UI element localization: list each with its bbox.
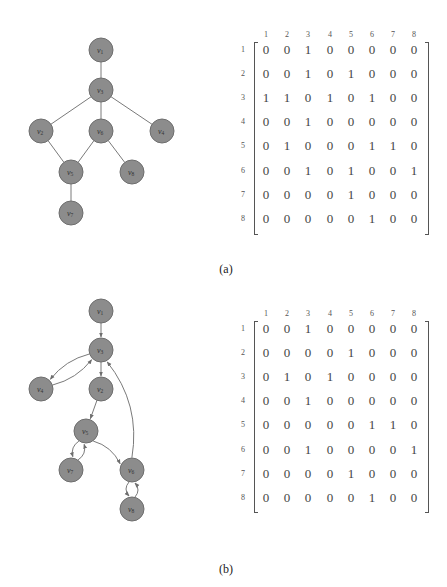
column-header: 5 [344,30,358,39]
column-header: 1 [259,309,273,318]
column-header: 8 [407,30,421,39]
matrix-cell: 0 [300,369,316,385]
matrix-cell: 0 [385,466,401,482]
matrix-cell: 1 [364,90,380,106]
matrix-cell: 0 [322,490,338,506]
matrix-cell: 0 [364,466,380,482]
column-header: 4 [323,30,337,39]
matrix-cell: 0 [258,442,274,458]
matrix-cell: 0 [343,90,359,106]
matrix-cell: 0 [406,321,422,337]
matrix-right-bracket [425,42,429,235]
matrix-cell: 0 [300,345,316,361]
matrix-cell: 0 [258,369,274,385]
column-header: 7 [386,30,400,39]
matrix-cell: 0 [258,211,274,227]
matrix-cell: 0 [258,114,274,130]
matrix-cell: 1 [343,466,359,482]
matrix-cell: 0 [279,163,295,179]
matrix-cell: 0 [364,393,380,409]
matrix-cell: 0 [406,66,422,82]
matrix-cell: 1 [322,90,338,106]
row-header: 6 [238,445,248,454]
matrix-cell: 1 [406,163,422,179]
matrix-cell: 0 [322,417,338,433]
matrix-cell: 0 [364,345,380,361]
matrix-cell: 0 [279,211,295,227]
matrix-cell: 1 [300,114,316,130]
column-header: 5 [344,309,358,318]
matrix-cell: 1 [258,90,274,106]
column-header: 2 [280,309,294,318]
matrix-cell: 0 [364,187,380,203]
matrix-cell: 0 [385,345,401,361]
matrix-cell: 0 [364,42,380,58]
matrix-cell: 0 [279,321,295,337]
matrix-cell: 0 [322,114,338,130]
matrix-cell: 1 [300,442,316,458]
matrix-cell: 0 [385,163,401,179]
matrix-cell: 0 [279,466,295,482]
matrix-cell: 0 [279,442,295,458]
matrix-cell: 0 [343,42,359,58]
matrix-cell: 1 [364,211,380,227]
matrix-cell: 1 [279,90,295,106]
matrix-cell: 0 [385,393,401,409]
caption-b: (b) [206,562,246,577]
matrix-left-bracket [254,321,258,513]
matrix-cell: 0 [322,138,338,154]
matrix-cell: 0 [258,417,274,433]
row-header: 8 [238,493,248,502]
row-header: 2 [238,348,248,357]
adjacency-matrix: 1234567812345678001000000010100011010100… [0,0,447,260]
matrix-cell: 0 [258,66,274,82]
row-header: 8 [238,214,248,223]
matrix-cell: 0 [406,345,422,361]
matrix-cell: 1 [343,345,359,361]
matrix-cell: 0 [258,187,274,203]
caption-a: (a) [206,262,246,277]
matrix-cell: 1 [364,417,380,433]
matrix-cell: 0 [385,321,401,337]
matrix-cell: 1 [300,321,316,337]
matrix-cell: 1 [300,163,316,179]
matrix-cell: 0 [343,442,359,458]
matrix-cell: 1 [322,369,338,385]
matrix-cell: 0 [322,442,338,458]
matrix-cell: 0 [279,345,295,361]
column-header: 2 [280,30,294,39]
matrix-cell: 1 [300,393,316,409]
matrix-cell: 0 [385,90,401,106]
row-header: 7 [238,190,248,199]
matrix-cell: 0 [279,187,295,203]
matrix-cell: 0 [406,369,422,385]
matrix-cell: 0 [406,490,422,506]
column-header: 7 [386,309,400,318]
matrix-cell: 0 [343,321,359,337]
adjacency-matrix: 1234567812345678001000000000100001010000… [0,280,447,540]
matrix-cell: 0 [258,490,274,506]
row-header: 7 [238,469,248,478]
column-header: 3 [301,30,315,39]
column-header: 4 [323,309,337,318]
matrix-cell: 0 [343,138,359,154]
matrix-cell: 0 [406,393,422,409]
matrix-cell: 0 [258,345,274,361]
matrix-cell: 1 [343,187,359,203]
matrix-cell: 0 [322,321,338,337]
matrix-cell: 1 [300,42,316,58]
matrix-cell: 0 [322,466,338,482]
matrix-cell: 0 [364,114,380,130]
matrix-cell: 0 [364,321,380,337]
matrix-cell: 0 [406,138,422,154]
column-header: 6 [365,309,379,318]
matrix-cell: 0 [343,417,359,433]
matrix-cell: 0 [322,66,338,82]
column-header: 1 [259,30,273,39]
row-header: 4 [238,117,248,126]
row-header: 6 [238,166,248,175]
matrix-cell: 0 [385,114,401,130]
row-header: 3 [238,372,248,381]
matrix-left-bracket [254,42,258,235]
matrix-cell: 0 [364,369,380,385]
